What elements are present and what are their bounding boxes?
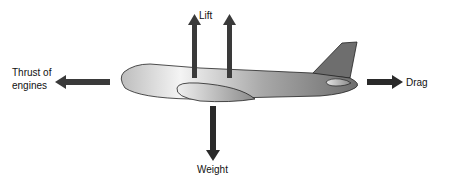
tail-fin xyxy=(312,42,357,78)
lift-label: Lift xyxy=(199,10,212,22)
drag-arrow xyxy=(367,75,403,89)
airplane-forces-diagram xyxy=(0,0,456,183)
thrust-arrow xyxy=(55,75,110,89)
weight-label: Weight xyxy=(197,164,228,176)
drag-label: Drag xyxy=(406,77,428,89)
weight-arrow xyxy=(206,106,220,161)
thrust-label-line2: engines xyxy=(12,80,47,92)
thrust-label-line1: Thrust of xyxy=(12,67,51,79)
